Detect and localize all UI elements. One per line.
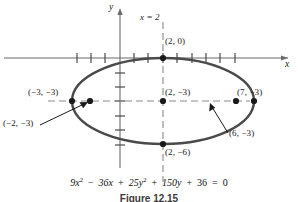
- ellipse-plot: [0, 0, 298, 202]
- point-left-vertex: [69, 98, 75, 104]
- label-bottom-vertex: (2, −6): [165, 147, 190, 157]
- point-top-vertex: [160, 55, 166, 61]
- y-axis: [117, 8, 122, 168]
- label-right-vertex: (7, −3): [237, 87, 262, 97]
- label-center: (2, −3): [165, 87, 190, 97]
- label-top-vertex: (2, 0): [165, 36, 185, 46]
- figure-caption: Figure 12.15: [0, 193, 298, 202]
- left-focus-leader-arrow: [40, 102, 88, 125]
- point-left-focus: [87, 98, 93, 104]
- ellipse-figure: y x x = 2 (2, 0) (2, −6) (−3, −3) (7, −3…: [0, 0, 298, 202]
- conic-equation: 9x2 − 36x + 25y2 + 150y + 36 = 0: [0, 176, 298, 188]
- label-left-vertex: (−3, −3): [28, 87, 58, 97]
- point-right-focus: [233, 98, 239, 104]
- x-axis-label: x: [285, 59, 289, 69]
- y-axis-label: y: [109, 2, 113, 12]
- symmetry-line-label: x = 2: [140, 12, 160, 22]
- label-left-focus: (−2, −3): [3, 118, 33, 128]
- point-center: [160, 98, 166, 104]
- right-focus-leader-arrow: [209, 103, 228, 133]
- label-right-focus: (6, −3): [229, 128, 254, 138]
- point-right-vertex: [251, 98, 257, 104]
